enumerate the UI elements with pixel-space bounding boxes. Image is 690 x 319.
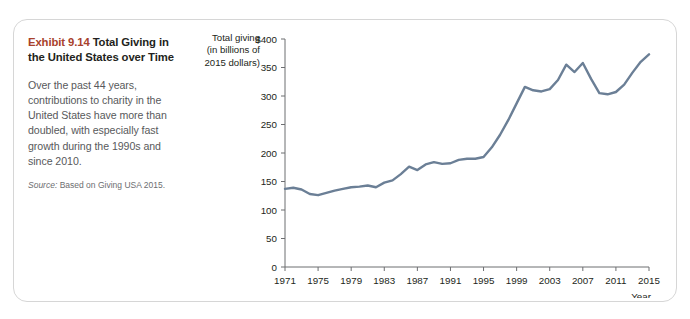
x-tick-label: 1995 xyxy=(473,275,495,286)
y-tick-label: 100 xyxy=(261,205,278,216)
y-tick-label: 200 xyxy=(261,148,278,159)
line-chart-plot: 050100150200250300350$400197119751979198… xyxy=(186,28,666,298)
y-tick-label: $400 xyxy=(255,34,277,45)
exhibit-number: Exhibit 9.14 xyxy=(28,36,90,48)
y-tick-label: 150 xyxy=(261,176,278,187)
source-text: Based on Giving USA 2015. xyxy=(57,180,165,190)
x-tick-label: 2015 xyxy=(638,275,660,286)
x-tick-label: 2007 xyxy=(572,275,594,286)
x-tick-label: 1975 xyxy=(307,275,329,286)
x-tick-label: 2003 xyxy=(539,275,561,286)
x-tick-label: 1991 xyxy=(440,275,462,286)
exhibit-figure: Exhibit 9.14 Total Giving in the United … xyxy=(0,0,690,319)
caption-source: Source: Based on Giving USA 2015. xyxy=(28,180,178,191)
y-tick-label: 350 xyxy=(261,62,278,73)
y-tick-label: 50 xyxy=(266,233,277,244)
x-tick-label: 2011 xyxy=(605,275,626,286)
data-series-line xyxy=(285,54,649,195)
y-tick-label: 0 xyxy=(272,262,278,273)
chart-container: Total giving (in billions of 2015 dollar… xyxy=(186,28,666,298)
x-tick-label: 1979 xyxy=(340,275,362,286)
x-tick-label: 1999 xyxy=(506,275,528,286)
x-tick-label: 1987 xyxy=(406,275,428,286)
x-tick-label: 1983 xyxy=(373,275,395,286)
page-title: Exhibit 9.14 Total Giving in the United … xyxy=(28,35,178,64)
y-tick-label: 250 xyxy=(261,119,278,130)
source-label: Source: xyxy=(28,180,57,190)
caption-body-text: Over the past 44 years, contributions to… xyxy=(28,78,178,169)
x-axis-label: Year xyxy=(631,291,652,298)
chart-svg: 050100150200250300350$400197119751979198… xyxy=(186,28,666,298)
y-tick-label: 300 xyxy=(261,91,278,102)
caption-block: Exhibit 9.14 Total Giving in the United … xyxy=(28,35,178,191)
x-tick-label: 1971 xyxy=(274,275,296,286)
